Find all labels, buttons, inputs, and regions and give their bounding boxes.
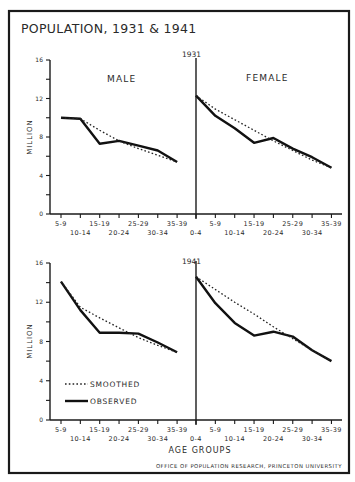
y-tick-label: 4 (39, 377, 43, 384)
x-tick-label: 35-39 (167, 426, 188, 434)
x-tick-label: 10-14 (70, 229, 91, 237)
year-label-1931: 1931 (182, 50, 201, 59)
x-axis-label: AGE GROUPS (169, 446, 232, 455)
x-tick-label: 35-39 (167, 220, 188, 228)
x-tick-label: 0-4 (190, 435, 202, 443)
x-tick-label: 35-39 (321, 220, 342, 228)
chart-title: POPULATION, 1931 & 1941 (21, 21, 197, 36)
x-tick-label: 10-14 (224, 435, 245, 443)
y-tick-label: 0 (39, 210, 43, 217)
x-tick-label: 10-14 (70, 435, 91, 443)
observed-line (61, 282, 177, 353)
male-label: MALE (107, 74, 136, 84)
y-tick-label: 12 (35, 298, 43, 305)
x-tick-label: 0-4 (190, 229, 202, 237)
y-tick-label: 4 (39, 172, 43, 179)
x-tick-label: 35-39 (321, 426, 342, 434)
x-tick-label: 20-24 (263, 229, 284, 237)
legend: SMOOTHED OBSERVED (65, 380, 140, 406)
x-tick-label: 25-29 (128, 426, 149, 434)
x-tick-label: 25-29 (282, 426, 303, 434)
observed-line (196, 277, 331, 361)
y-axis-label-bottom: MILLION (26, 323, 34, 359)
y-tick-label: 16 (35, 56, 43, 63)
x-tick-label: 30-34 (147, 229, 168, 237)
population-chart: POPULATION, 1931 & 1941 04812165-910-141… (0, 0, 355, 482)
observed-line (196, 96, 331, 168)
legend-smoothed-label: SMOOTHED (90, 380, 140, 389)
x-tick-label: 15-19 (89, 426, 110, 434)
x-tick-label: 5-9 (55, 426, 67, 434)
credit-line: OFFICE OF POPULATION RESEARCH, PRINCETON… (156, 463, 342, 469)
x-tick-label: 25-29 (128, 220, 149, 228)
x-tick-label: 30-34 (302, 229, 323, 237)
x-tick-label: 20-24 (109, 435, 130, 443)
panels: 04812165-910-1415-1920-2425-2930-3435-39… (35, 56, 342, 443)
y-tick-label: 8 (39, 338, 43, 345)
y-tick-label: 8 (39, 133, 43, 140)
y-tick-label: 16 (35, 259, 43, 266)
legend-observed-label: OBSERVED (90, 397, 137, 406)
x-tick-label: 15-19 (244, 426, 265, 434)
chart-frame (9, 11, 349, 473)
x-tick-label: 30-34 (302, 435, 323, 443)
x-tick-label: 25-29 (282, 220, 303, 228)
x-tick-label: 15-19 (244, 220, 265, 228)
y-tick-label: 12 (35, 95, 43, 102)
x-tick-label: 30-34 (147, 435, 168, 443)
x-tick-label: 20-24 (109, 229, 130, 237)
x-tick-label: 15-19 (89, 220, 110, 228)
x-tick-label: 20-24 (263, 435, 284, 443)
x-tick-label: 5-9 (55, 220, 67, 228)
female-label: FEMALE (246, 73, 289, 83)
x-tick-label: 5-9 (209, 426, 221, 434)
y-axis-label-top: MILLION (26, 119, 34, 155)
x-tick-label: 5-9 (209, 220, 221, 228)
y-tick-label: 0 (39, 416, 43, 423)
smoothed-line (61, 282, 177, 353)
year-label-1941: 1941 (182, 257, 201, 266)
x-tick-label: 10-14 (224, 229, 245, 237)
